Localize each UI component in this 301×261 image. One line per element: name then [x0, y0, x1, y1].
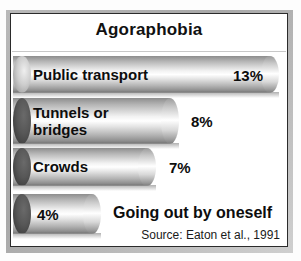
bar-value-tunnels-or-bridges: 8%: [191, 113, 213, 130]
bar-label-public-transport: Public transport: [33, 67, 148, 82]
bar-label-crowds: Crowds: [33, 159, 88, 174]
bar-value-public-transport: 13%: [233, 67, 263, 84]
bar-value-crowds: 7%: [169, 159, 191, 176]
chart-image: Agoraphobia Public transport 13% Tunnels…: [0, 0, 301, 261]
bar-label-tunnels-or-bridges: Tunnels or bridges: [33, 104, 109, 138]
bar-right-cap: [138, 148, 156, 186]
chart-title: Agoraphobia: [11, 20, 287, 40]
bar-right-cap: [261, 56, 279, 93]
source-note: Source: Eaton et al., 1991: [141, 228, 280, 242]
bar-left-cap: [13, 56, 31, 93]
bar-left-cap: [13, 98, 31, 144]
bar-right-cap: [83, 194, 101, 234]
title-divider: [12, 51, 286, 52]
chart-panel: Agoraphobia Public transport 13% Tunnels…: [10, 13, 288, 247]
bar-right-cap: [161, 98, 179, 144]
bar-label-going-out-by-oneself: Going out by oneself: [113, 204, 272, 222]
bar-ground-shadow: [13, 185, 156, 191]
bar-left-cap: [13, 148, 31, 186]
bar-ground-shadow: [13, 233, 101, 239]
bar-value-going-out-by-oneself: 4%: [37, 206, 59, 223]
bar-left-cap: [13, 194, 31, 234]
